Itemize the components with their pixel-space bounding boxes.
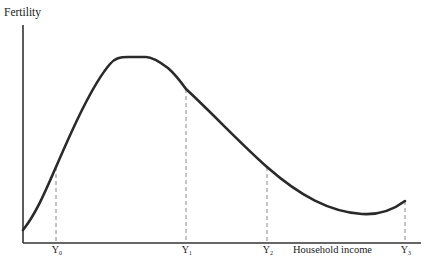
tick-y1: Y₁ [182, 244, 193, 255]
y-axis-label: Fertility [4, 6, 41, 18]
chart-canvas [0, 0, 433, 267]
tick-y2: Y₂ [263, 244, 274, 255]
fertility-curve [23, 57, 405, 230]
tick-y0: Y₀ [52, 244, 63, 255]
x-axis-label: Household income [293, 244, 372, 255]
tick-y3: Y₃ [401, 244, 412, 255]
